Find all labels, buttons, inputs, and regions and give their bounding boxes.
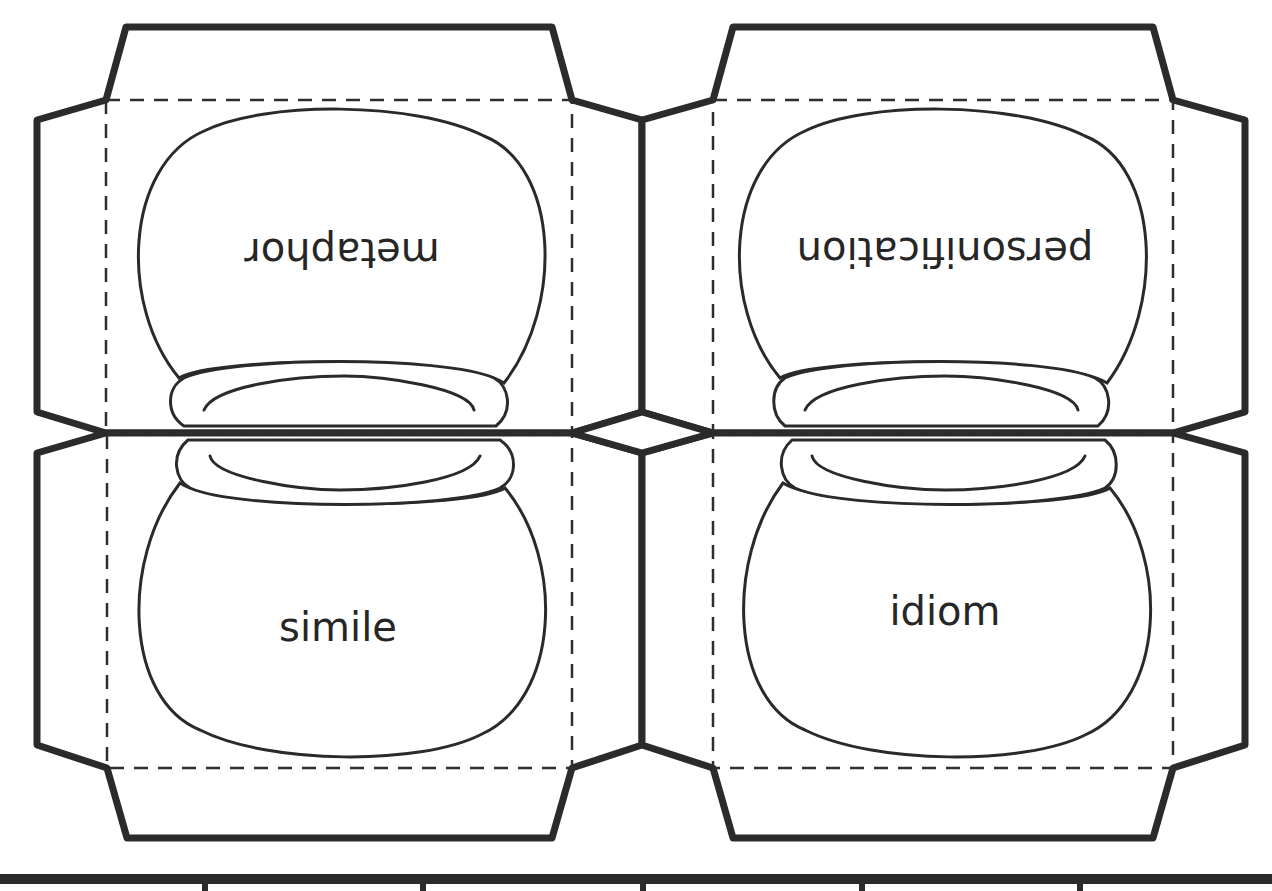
bottom-strip bbox=[0, 874, 1272, 891]
pot-personification: personification bbox=[739, 109, 1146, 426]
pot-metaphor: metaphor bbox=[138, 109, 545, 426]
pot-simile: simile bbox=[139, 440, 546, 757]
bottom-strip-divider bbox=[202, 880, 208, 891]
bottom-strip-divider bbox=[640, 880, 646, 891]
bottom-strip-divider bbox=[1077, 880, 1083, 891]
card-term-metaphor: metaphor bbox=[244, 230, 440, 276]
card-term-simile: simile bbox=[279, 604, 397, 650]
worksheet-canvas: simile idiom metaphor personification bbox=[0, 0, 1272, 891]
bottom-strip-divider bbox=[859, 880, 865, 891]
bottom-strip-divider bbox=[420, 880, 426, 891]
card-term-idiom: idiom bbox=[889, 588, 1000, 634]
card-term-personification: personification bbox=[797, 229, 1094, 275]
pot-idiom: idiom bbox=[744, 440, 1151, 757]
